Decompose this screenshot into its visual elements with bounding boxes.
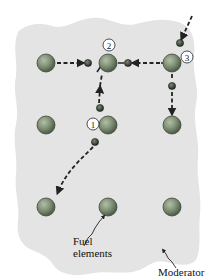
fuel-label-line2: elements	[73, 247, 112, 259]
neutron-3	[176, 39, 183, 46]
neutron-4	[168, 82, 175, 89]
event-marker-2: 2	[103, 39, 115, 51]
neutron-6	[91, 138, 98, 145]
event-marker-1: 1	[87, 118, 99, 130]
fuel-element-r3-c1	[37, 198, 55, 216]
fuel-label-line1: Fuel	[73, 235, 93, 247]
fuel-element-r1-c1	[37, 54, 55, 72]
svg-text:2: 2	[107, 41, 112, 51]
reactor-diagram: 2 3 1 Fuel elements Moderator	[0, 0, 209, 280]
neutron-5	[96, 104, 103, 111]
fuel-element-r1-c2	[99, 54, 117, 72]
fuel-element-r1-c3	[163, 54, 181, 72]
fuel-element-r2-c3	[163, 116, 181, 134]
neutron-1	[84, 59, 91, 66]
fuel-element-r3-c3	[163, 198, 181, 216]
moderator-label: Moderator	[158, 266, 205, 278]
fuel-element-r2-c1	[37, 116, 55, 134]
svg-text:1: 1	[91, 120, 96, 130]
event-marker-3: 3	[181, 51, 193, 63]
fuel-element-r3-c2	[99, 198, 117, 216]
fuel-element-r2-c2	[99, 116, 117, 134]
neutron-2	[124, 59, 131, 66]
svg-text:3: 3	[185, 53, 190, 63]
